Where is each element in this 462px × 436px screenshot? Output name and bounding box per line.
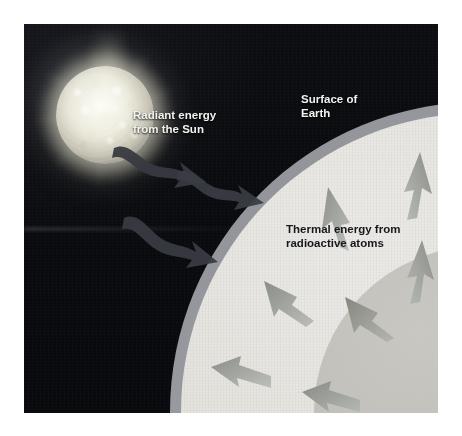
label-thermal-energy: Thermal energy from radioactive atoms [286, 222, 400, 251]
diagram-figure: Radiant energy from the Sun Surface of E… [24, 24, 438, 413]
label-surface-of-earth: Surface of Earth [301, 92, 357, 121]
internal-arrow-6 [209, 354, 273, 396]
label-radiant-energy: Radiant energy from the Sun [133, 108, 216, 137]
solar-arrow-3 [120, 214, 228, 284]
solar-arrow-2 [176, 168, 272, 220]
internal-arrow-5 [342, 284, 398, 342]
internal-arrow-7 [300, 379, 362, 413]
internal-arrow-4 [395, 238, 438, 306]
internal-arrow-1 [391, 150, 437, 222]
internal-arrow-3 [262, 269, 318, 327]
